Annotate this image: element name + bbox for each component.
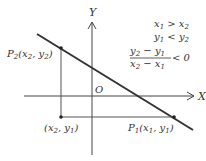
fraction-relation: < 0 xyxy=(172,52,191,63)
point-corner xyxy=(59,115,63,119)
point-p2 xyxy=(59,46,63,50)
condition-y: y1 < y2 xyxy=(153,31,190,44)
condition-x: x1 > x2 xyxy=(154,18,190,31)
x-axis-label: X xyxy=(197,90,206,103)
origin-label: O xyxy=(95,84,103,95)
coordinate-diagram: Y X O P2(x2, y2) (x2, y1) P1(x1, y1) x1 … xyxy=(0,0,206,161)
slope-fraction: y2 − y1 x2 − x1 < 0 xyxy=(129,45,191,71)
fraction-denominator: x2 − x1 xyxy=(130,58,165,71)
p1-label: P1(x1, y1) xyxy=(127,122,174,135)
fraction-numerator: y2 − y1 xyxy=(129,45,165,58)
point-p1 xyxy=(172,115,176,119)
p2-label: P2(x2, y2) xyxy=(6,48,53,61)
y-axis-label: Y xyxy=(89,6,98,19)
corner-label: (x2, y1) xyxy=(44,122,79,135)
